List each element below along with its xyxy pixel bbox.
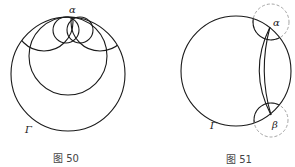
figure-51: α β Γ 图 51 bbox=[181, 4, 291, 165]
figure-50: α Γ 图 50 bbox=[11, 0, 129, 164]
circle-gamma bbox=[181, 16, 291, 126]
circle-medium bbox=[29, 17, 107, 95]
caption-fig-50: 图 50 bbox=[53, 153, 79, 164]
label-beta: β bbox=[271, 119, 278, 130]
label-alpha: α bbox=[273, 17, 280, 28]
circle-small-left bbox=[53, 17, 79, 43]
label-alpha: α bbox=[69, 4, 76, 15]
label-gamma: Γ bbox=[24, 124, 33, 135]
circle-small-right bbox=[67, 17, 93, 43]
figures-canvas: α Γ 图 50 α β Γ 图 51 bbox=[0, 0, 295, 167]
caption-fig-51: 图 51 bbox=[226, 154, 252, 165]
label-gamma: Γ bbox=[209, 120, 218, 131]
